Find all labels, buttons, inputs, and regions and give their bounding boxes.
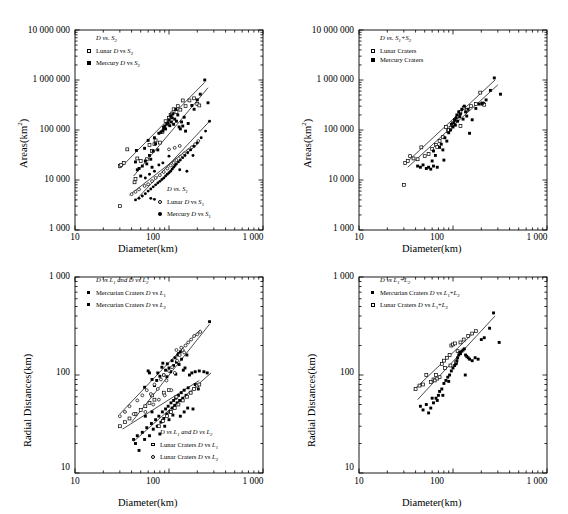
filled-square-icon [87, 61, 91, 65]
panel-bottom-left: Radial Distances(km) Diameter(km) 1 000 … [0, 257, 284, 514]
panel-bottom-right-legend: D vs L1+L2 Mercurian Craters D vs L1+L2 … [370, 275, 460, 313]
legend-title: D vs L1 and D vs L2 [86, 275, 166, 288]
legend-entry-lunar-l2: Lunar Craters D vs L2 [150, 452, 218, 465]
open-square-icon [87, 49, 91, 53]
legend-title: D vs L1 and D vs L2 [150, 427, 218, 440]
panel-bottom-right-xtick-1: 100 [422, 476, 452, 486]
legend-entry-mercury-s1: Mercury D vs S1 [157, 209, 211, 222]
legend-entry-lunar-l1: Lunar Craters D vs L1 [150, 440, 218, 453]
panel-top-right-ytick-3: 10 000 [288, 174, 354, 184]
panel-top-left-ytick-1: 1 000 000 [4, 74, 70, 84]
legend-entry-lunar-s1: Lunar D vs S1 [157, 197, 211, 210]
panel-top-right-x-axis-label: Diameter(km) [402, 243, 461, 254]
open-square-icon [151, 443, 155, 447]
panel-bottom-right-xtick-0: 10 [344, 476, 374, 486]
legend-entry-mercury-s2: Mercury D vs S2 [86, 58, 140, 71]
panel-bottom-left-x-axis-label: Diameter(km) [118, 497, 177, 508]
panel-top-right-ytick-2: 100 000 [288, 124, 354, 134]
legend-title: D vs. S2 [86, 33, 140, 46]
panel-top-left-ytick-3: 10 000 [4, 174, 70, 184]
filled-square-icon [87, 303, 90, 306]
filled-circle-icon [158, 212, 162, 216]
panel-top-right-xtick-2: 1 000 [517, 232, 557, 242]
panel-bottom-left-xtick-0: 10 [60, 476, 90, 486]
panel-bottom-right-ytick-2: 10 [314, 462, 354, 472]
panel-bottom-right: Radial Distances(km) Diameter(km) 1 000 … [284, 257, 568, 514]
panel-bottom-right-x-axis-label: Diameter(km) [402, 497, 461, 508]
filled-square-icon [371, 291, 374, 294]
open-square-icon [371, 303, 375, 307]
panel-bottom-left-legend-bottom: D vs L1 and D vs L2 Lunar Craters D vs L… [150, 427, 218, 465]
legend-title: D vs. S1+S2 [370, 33, 423, 46]
panel-bottom-left-ytick-1: 100 [30, 367, 70, 377]
panel-top-right-ytick-0: 10 000 000 [288, 25, 354, 35]
panel-top-left-legend-top: D vs. S2 Lunar D vs S2 Mercury D vs S2 [86, 33, 140, 71]
panel-bottom-right-ytick-0: 1 000 [314, 271, 354, 281]
panel-bottom-left-ytick-2: 10 [30, 462, 70, 472]
figure-root: Areas(km2) Diameter(km) 10 000 000 1 000… [0, 0, 568, 514]
legend-entry-lunar-s2: Lunar D vs S2 [86, 46, 140, 59]
open-circle-icon [158, 200, 162, 204]
panel-top-left-xtick-0: 10 [60, 232, 90, 242]
panel-top-right-legend: D vs. S1+S2 Lunar Craters Mercury Crater… [370, 33, 423, 64]
panel-top-left-ytick-0: 10 000 000 [4, 25, 70, 35]
open-square-icon [371, 49, 375, 53]
panel-top-left-x-axis-label: Diameter(km) [118, 243, 177, 254]
legend-entry-lunar-craters: Lunar Craters [370, 46, 423, 55]
panel-top-left-xtick-2: 1 000 [233, 232, 273, 242]
filled-square-icon [87, 291, 90, 294]
panel-top-right-ytick-1: 1 000 000 [288, 74, 354, 84]
legend-entry-mercurian-l2: Mercurian Craters D vs L2 [86, 300, 166, 313]
panel-top-left-legend-bottom: D vs. S1 Lunar D vs S1 Mercury D vs S1 [157, 184, 211, 222]
panel-bottom-right-ytick-1: 100 [314, 367, 354, 377]
open-circle-icon [151, 455, 155, 459]
panel-bottom-left-legend-top: D vs L1 and D vs L2 Mercurian Craters D … [86, 275, 166, 313]
panel-bottom-left-ytick-0: 1 000 [30, 271, 70, 281]
panel-top-right-xtick-1: 100 [422, 232, 452, 242]
panel-bottom-left-xtick-1: 100 [138, 476, 168, 486]
panel-top-left: Areas(km2) Diameter(km) 10 000 000 1 000… [0, 0, 284, 257]
legend-entry-mercurian: Mercurian Craters D vs L1+L2 [370, 288, 460, 301]
legend-entry-lunar: Lunar Craters D vs L1+L2 [370, 300, 460, 313]
panel-top-left-ytick-2: 100 000 [4, 124, 70, 134]
legend-title: D vs L1+L2 [370, 275, 460, 288]
panel-top-right-xtick-0: 10 [344, 232, 374, 242]
legend-entry-mercury-craters: Mercury Craters [370, 55, 423, 64]
panel-top-right: Areas(km2) Diameter(km) 10 000 000 1 000… [284, 0, 568, 257]
panel-bottom-right-xtick-2: 1 000 [517, 476, 557, 486]
legend-title: D vs. S1 [157, 184, 211, 197]
panel-bottom-left-xtick-2: 1 000 [233, 476, 273, 486]
filled-square-icon [371, 58, 375, 62]
legend-entry-mercurian-l1: Mercurian Craters D vs L1 [86, 288, 166, 301]
panel-top-left-xtick-1: 100 [138, 232, 168, 242]
